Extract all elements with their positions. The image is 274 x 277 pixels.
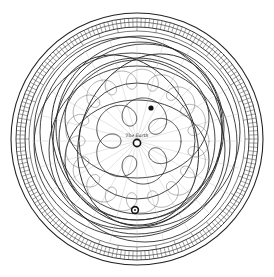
orbit-diagram: The Earth: [0, 0, 274, 277]
earth-label: The Earth: [126, 133, 149, 138]
earth-icon: [133, 139, 140, 146]
diagram-canvas: The Earth: [0, 0, 274, 277]
planet-icon: [148, 105, 153, 110]
sun-icon: [132, 207, 139, 214]
